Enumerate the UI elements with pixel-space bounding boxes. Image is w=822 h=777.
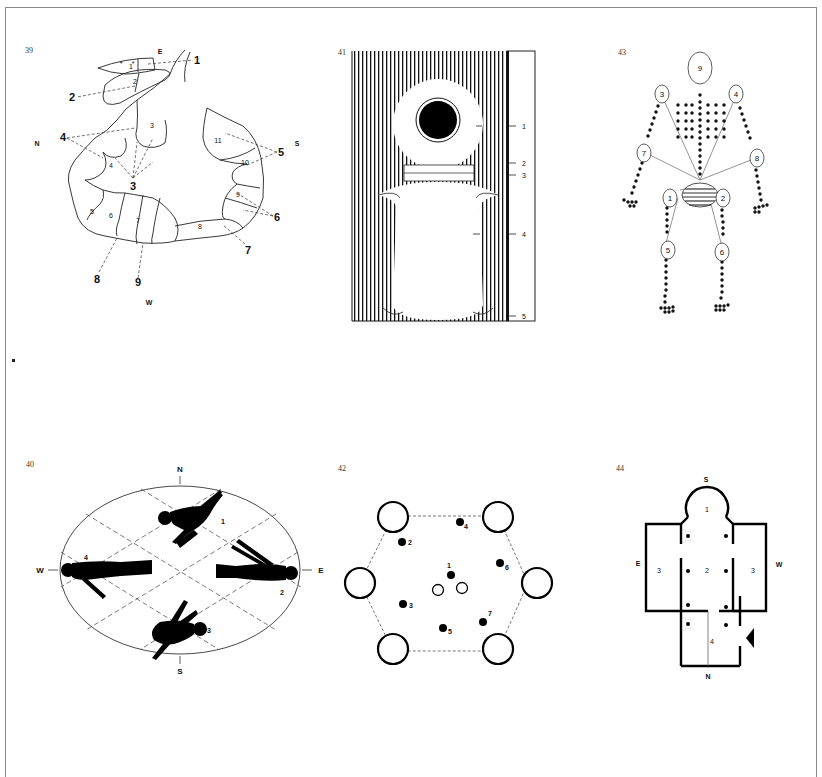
svg-text:8: 8	[198, 223, 202, 230]
svg-text:6: 6	[274, 211, 280, 223]
svg-text:3: 3	[150, 122, 154, 129]
body-dot-diagram: 1 2 3 4 5 6 7 8 9	[618, 50, 788, 320]
callout-labels: 1 2 3 4 5 6 7 8 9	[60, 54, 284, 288]
svg-text:4: 4	[522, 231, 526, 238]
svg-text:2: 2	[69, 91, 75, 103]
svg-text:7: 7	[136, 217, 140, 224]
svg-text:1: 1	[447, 562, 451, 569]
svg-text:2: 2	[408, 539, 412, 546]
svg-text:5: 5	[522, 313, 526, 320]
segment-labels: 1 2 3 4 5 6 7 8 9 10 11	[90, 63, 249, 230]
svg-text:1: 1	[705, 506, 709, 513]
svg-text:4: 4	[464, 523, 468, 530]
svg-text:1: 1	[129, 63, 133, 70]
svg-text:10: 10	[241, 159, 249, 166]
svg-text:3: 3	[751, 567, 755, 574]
svg-text:5: 5	[666, 246, 671, 255]
svg-text:9: 9	[698, 64, 703, 73]
svg-text:3: 3	[657, 567, 661, 574]
svg-text:2: 2	[721, 194, 726, 203]
svg-text:6: 6	[505, 564, 509, 571]
figure-number: 42	[338, 464, 346, 473]
svg-text:2: 2	[133, 78, 137, 85]
svg-text:3: 3	[660, 90, 665, 99]
svg-text:3: 3	[207, 627, 211, 634]
svg-text:4: 4	[84, 554, 88, 561]
svg-text:3: 3	[130, 180, 136, 192]
svg-text:3: 3	[522, 172, 526, 179]
svg-text:7: 7	[488, 610, 492, 617]
svg-text:S: S	[295, 140, 300, 147]
svg-text:1: 1	[194, 54, 200, 66]
svg-text:6: 6	[109, 212, 113, 219]
figure-39: 39	[25, 48, 315, 288]
svg-text:*: *	[120, 60, 123, 67]
svg-text:E: E	[158, 48, 163, 55]
figure-42: 42 1 2 3 4 5 6	[338, 466, 568, 676]
figure-44: 44 S E W N	[616, 466, 796, 676]
column-dots	[686, 534, 728, 627]
svg-text:5: 5	[278, 146, 284, 158]
svg-text:4: 4	[734, 90, 739, 99]
compass-labels: E N S W	[34, 48, 299, 306]
svg-text:W: W	[36, 566, 44, 575]
compass-labels: S E W N	[636, 476, 783, 680]
svg-text:S: S	[704, 476, 709, 483]
four-figures-diagram: N S W E 1 2 3 4	[26, 462, 326, 672]
serpent-circle-diagram: ** 1 2 3 4 5 6 7 8 9 10 11 1 2 3 4 5 6 7…	[25, 48, 315, 288]
figure-41: 41	[338, 50, 548, 330]
svg-text:N: N	[705, 673, 710, 680]
figure-number: 40	[26, 460, 34, 469]
svg-text:W: W	[146, 299, 153, 306]
stray-mark	[12, 359, 15, 362]
point-labels: 1 2 3 4 5 6 7	[408, 523, 509, 635]
svg-text:7: 7	[642, 149, 647, 158]
figure-silhouettes	[61, 490, 298, 660]
svg-text:1: 1	[221, 518, 225, 525]
svg-text:2: 2	[522, 160, 526, 167]
svg-text:E: E	[636, 560, 641, 567]
svg-text:8: 8	[94, 273, 100, 285]
svg-text:5: 5	[90, 208, 94, 215]
svg-text:5: 5	[448, 628, 452, 635]
svg-text:8: 8	[755, 154, 760, 163]
figure-number: 44	[616, 464, 624, 473]
svg-text:1: 1	[522, 123, 526, 130]
svg-text:7: 7	[245, 244, 251, 256]
svg-text:9: 9	[135, 276, 141, 288]
figure-number: 39	[25, 46, 33, 55]
svg-text:E: E	[318, 566, 324, 575]
svg-text:3: 3	[409, 602, 413, 609]
svg-text:N: N	[177, 465, 183, 474]
svg-text:4: 4	[109, 162, 113, 169]
svg-text:6: 6	[720, 248, 725, 257]
entrance-arrow-icon	[746, 628, 754, 648]
cruciform-plan-diagram: S E W N 1 2 3 3 4	[616, 466, 796, 676]
svg-text:2: 2	[280, 589, 284, 596]
figure-43: 43	[618, 50, 788, 320]
svg-text:4: 4	[60, 131, 67, 143]
figure-number: 41	[338, 48, 346, 57]
figure-number: 43	[618, 48, 626, 57]
svg-text:S: S	[177, 667, 183, 676]
svg-text:2: 2	[705, 567, 709, 574]
svg-text:1: 1	[668, 194, 673, 203]
svg-text:N: N	[34, 140, 39, 147]
svg-text:11: 11	[214, 137, 221, 144]
figure-40: 40	[26, 462, 326, 672]
svg-text:4: 4	[710, 638, 714, 645]
svg-text:9: 9	[236, 191, 240, 198]
svg-text:W: W	[776, 561, 783, 568]
hexagon-pillars-diagram: 1 2 3 4 5 6 7	[338, 466, 568, 676]
pillars	[345, 502, 552, 664]
sarcophagus-diagram: 1 2 3 4 5	[338, 50, 548, 330]
